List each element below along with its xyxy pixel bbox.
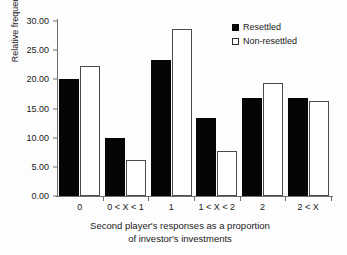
bar-resettled[interactable] [288,98,308,196]
legend-item[interactable]: Resettled [232,22,297,32]
y-tick-label: 25.00 [26,45,49,55]
y-tick-label: 0.00 [31,191,49,201]
x-tick-mark [148,196,149,201]
x-tick-mark [103,196,104,201]
legend-label: Resettled [243,22,281,32]
y-axis-ticks: 0.005.0010.0015.0020.0025.0030.00 [0,0,57,255]
x-tick-mark [194,196,195,201]
hollow-square-icon [232,38,239,45]
bar-non-resettled[interactable] [80,66,100,196]
y-tick-label: 5.00 [31,162,49,172]
bar-group [105,21,146,196]
bar-resettled[interactable] [196,118,216,196]
y-tick-label: 20.00 [26,74,49,84]
x-tick-mark [331,196,332,201]
legend-label: Non-resettled [243,36,297,46]
y-tick-label: 15.00 [26,104,49,114]
bar-resettled[interactable] [59,79,79,196]
bar-resettled[interactable] [242,98,262,196]
x-axis-title-line-2: of investor's investments [40,232,320,245]
x-tick-label: 1 [169,202,174,212]
x-tick-label: 2 [260,202,265,212]
x-tick-label: 0 < X < 1 [107,202,144,212]
x-axis-title-line-1: Second player's responses as a proportio… [40,219,320,232]
bar-group [59,21,100,196]
x-tick-label: 1 < X < 2 [199,202,236,212]
bar-group [151,21,192,196]
y-tick-label: 10.00 [26,133,49,143]
bar-chart: Relative frequency 0.005.0010.0015.0020.… [0,0,347,255]
y-tick-label: 30.00 [26,16,49,26]
x-tick-mark [285,196,286,201]
filled-square-icon [232,24,239,31]
bar-non-resettled[interactable] [126,160,146,196]
bar-non-resettled[interactable] [217,151,237,197]
bar-non-resettled[interactable] [263,83,283,196]
bar-resettled[interactable] [151,60,171,197]
bar-resettled[interactable] [105,138,125,196]
x-tick-label: 0 [77,202,82,212]
x-axis-title: Second player's responses as a proportio… [40,219,320,245]
bar-non-resettled[interactable] [172,29,192,196]
x-tick-mark [240,196,241,201]
bar-non-resettled[interactable] [309,101,329,196]
legend-item[interactable]: Non-resettled [232,36,297,46]
x-tick-label: 2 < X [298,202,319,212]
chart-legend: ResettledNon-resettled [232,22,297,50]
